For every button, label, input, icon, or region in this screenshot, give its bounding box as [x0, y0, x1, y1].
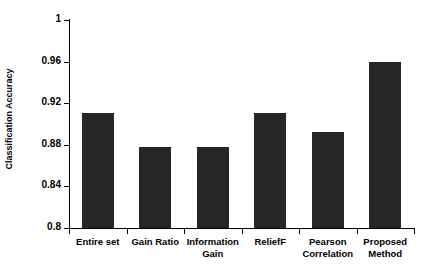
x-tick-mark	[184, 229, 185, 234]
x-axis-labels: Entire setGain RatioInformationGainRelie…	[69, 236, 415, 274]
bar-chart: Classification Accuracy 0.80.840.880.920…	[0, 0, 426, 274]
x-tick-mark	[357, 229, 358, 234]
x-axis-label-line: Correlation	[299, 248, 357, 260]
x-tick-mark	[127, 229, 128, 234]
x-tick-mark	[414, 229, 415, 234]
x-tick-mark	[69, 229, 70, 234]
bar-gain-ratio	[139, 147, 171, 228]
y-tick-label: 0.96	[42, 55, 61, 66]
x-tick-mark	[242, 229, 243, 234]
x-axis-label-line: Proposed	[357, 236, 415, 248]
x-axis-label: PearsonCorrelation	[299, 236, 357, 260]
y-tick-label: 0.84	[42, 179, 61, 190]
x-axis-label-line: Pearson	[299, 236, 357, 248]
x-axis-label-line: Entire set	[69, 236, 127, 248]
x-tick-mark	[299, 229, 300, 234]
x-axis-label: Gain Ratio	[127, 236, 185, 248]
x-axis-label-line: Gain	[184, 248, 242, 260]
bars-group	[69, 20, 414, 228]
x-axis-label: ReliefF	[242, 236, 300, 248]
y-tick-label: 0.88	[42, 138, 61, 149]
bar-relieff	[254, 113, 286, 228]
bar-information-gain	[197, 147, 229, 228]
x-axis-label-line: Gain Ratio	[127, 236, 185, 248]
x-axis-label-line: Method	[357, 248, 415, 260]
x-axis-label: ProposedMethod	[357, 236, 415, 260]
x-axis-label-line: Information	[184, 236, 242, 248]
y-tick-label: 1	[55, 13, 61, 24]
bar-entire-set	[82, 113, 114, 228]
bar-proposed-method	[369, 62, 401, 228]
x-axis-label: Entire set	[69, 236, 127, 248]
plot-area: 0.80.840.880.920.961	[69, 20, 414, 228]
x-axis-label-line: ReliefF	[242, 236, 300, 248]
y-tick-label: 0.92	[42, 96, 61, 107]
y-tick-label: 0.8	[47, 221, 61, 232]
y-axis-title: Classification Accuracy	[2, 4, 16, 234]
x-axis-label: InformationGain	[184, 236, 242, 260]
bar-pearson-correlation	[312, 132, 344, 228]
